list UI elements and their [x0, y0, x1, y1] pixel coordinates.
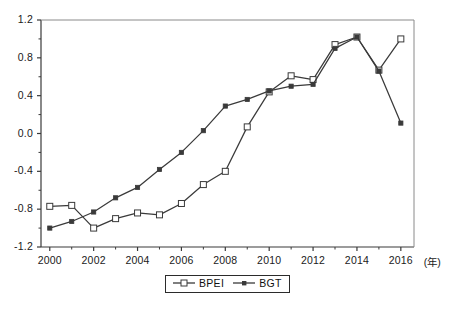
legend-label: BPEI: [199, 278, 224, 289]
line-chart: 1.20.80.40.0-0.4-0.8-1.22000200220042006…: [0, 0, 451, 310]
y-tick-label: 0.4: [0, 89, 33, 101]
chart-legend: BPEIBGT: [165, 275, 290, 293]
y-tick-label: 0.0: [0, 127, 33, 139]
x-tick-label: 2004: [116, 254, 160, 266]
legend-label: BGT: [259, 278, 282, 289]
x-tick-label: 2010: [247, 254, 291, 266]
legend-item-bpei[interactable]: BPEI: [173, 278, 224, 289]
legend-item-bgt[interactable]: BGT: [233, 278, 282, 289]
x-tick-label: 2016: [379, 254, 423, 266]
x-tick-label: 2006: [159, 254, 203, 266]
x-tick-label: 2014: [335, 254, 379, 266]
plot-frame: [41, 20, 414, 247]
y-tick-label: 0.8: [0, 51, 33, 63]
x-tick-label: 2000: [28, 254, 72, 266]
legend-marker-bgt: [233, 278, 255, 288]
y-tick-label: -0.8: [0, 202, 33, 214]
x-tick-label: 2012: [291, 254, 335, 266]
x-axis-unit-label: (年): [424, 254, 441, 269]
x-tick-label: 2002: [72, 254, 116, 266]
y-tick-label: -1.2: [0, 240, 33, 252]
legend-marker-bpei: [173, 278, 195, 288]
y-tick-label: -0.4: [0, 164, 33, 176]
x-tick-label: 2008: [203, 254, 247, 266]
y-tick-label: 1.2: [0, 13, 33, 25]
x-axis-ticks: [50, 247, 401, 251]
series-bgt: [48, 35, 403, 230]
series-bpei: [47, 34, 404, 231]
